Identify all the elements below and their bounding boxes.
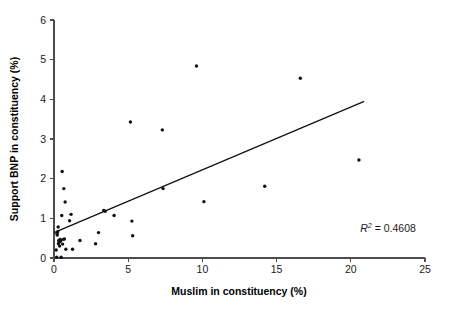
data-point [56,225,59,228]
x-tick-label: 20 [345,263,357,275]
data-point [56,230,59,233]
r-squared-annotation: R2 = 0.4608 [360,221,416,234]
trend-line [54,101,364,232]
data-point [69,213,72,216]
y-tick-label: 2 [40,172,46,184]
x-tick-label: 0 [51,263,57,275]
x-tick-label: 15 [271,263,283,275]
data-point [62,187,65,190]
x-tick-labels: 0510152025 [51,263,431,275]
x-tick-label: 25 [419,263,431,275]
data-point [202,200,205,203]
data-point [161,128,164,131]
y-tick-label: 3 [40,133,46,145]
data-point [64,248,67,251]
data-point [357,158,360,161]
data-point [161,187,164,190]
data-point [58,244,61,247]
data-point [63,200,66,203]
y-tick-label: 1 [40,212,46,224]
data-point [60,170,63,173]
data-point [195,64,198,67]
data-point [112,214,115,217]
data-point [55,248,58,251]
data-point [78,239,81,242]
data-point [71,248,74,251]
data-point [103,209,106,212]
data-point [68,219,71,222]
data-point [61,242,64,245]
data-point [94,242,97,245]
data-point [59,256,62,259]
data-point [63,237,66,240]
data-point [299,77,302,80]
data-point [263,185,266,188]
data-point [129,120,132,123]
y-axis-title: Support BNP in constituency (%) [8,57,20,221]
data-point [56,233,59,236]
plot-canvas: 0510152025 0123456 Muslim in constituenc… [0,0,452,309]
data-point [130,219,133,222]
y-tick-label: 0 [40,252,46,264]
x-axis-title: Muslim in constituency (%) [171,285,306,297]
y-tick-label: 4 [40,93,46,105]
y-tick-label: 5 [40,53,46,65]
data-points [55,64,361,259]
scatter-plot-figure: 0510152025 0123456 Muslim in constituenc… [0,0,452,309]
x-tick-label: 10 [197,263,209,275]
data-point [60,214,63,217]
x-tick-label: 5 [125,263,131,275]
linear-trend-line [54,101,364,232]
y-tick-label: 6 [40,14,46,26]
data-point [97,231,100,234]
y-tick-labels: 0123456 [40,14,46,264]
data-point [131,234,134,237]
data-point [55,256,58,259]
